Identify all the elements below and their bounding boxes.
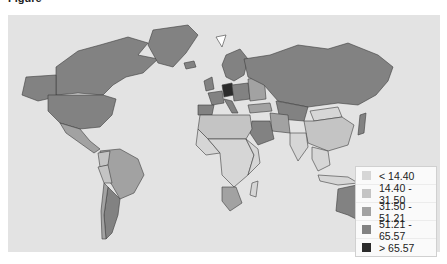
legend-item: 51.21 - 65.57 [356,221,436,239]
legend-item: > 65.57 [356,239,436,256]
country-north-africa [198,115,252,139]
country-canada [56,37,158,95]
country-spain [198,105,214,115]
legend-swatch-2 [362,189,371,198]
country-russia [244,43,393,107]
legend-label: 51.21 - 65.57 [379,218,436,242]
map-legend: < 14.40 14.40 - 31.50 31.50 - 51.21 51.2… [355,166,437,257]
country-colombia [98,151,110,167]
country-se-asia [312,147,330,171]
country-india [290,133,308,161]
legend-swatch-3 [362,207,371,216]
country-iceland [184,61,196,69]
figure-caption: Figure [8,0,42,4]
legend-swatch-4 [362,225,371,234]
country-svalbard [216,35,226,47]
country-usa [48,95,116,129]
country-south-africa [222,187,242,211]
country-italy [224,99,238,113]
country-central-africa [208,139,254,187]
country-turkey [248,103,272,113]
legend-swatch-5 [362,243,371,252]
country-france [208,91,224,105]
country-central-europe [232,83,250,101]
country-indonesia [318,175,358,185]
country-madagascar [250,181,258,197]
legend-swatch-1 [362,171,371,180]
country-saudi-arabia [250,121,274,145]
legend-label: < 14.40 [379,170,414,182]
country-japan [358,113,366,135]
legend-label: > 65.57 [379,242,414,254]
country-uk [204,77,214,91]
country-china [304,117,354,151]
country-scandinavia [222,49,248,81]
caption-prefix: Figure [8,0,42,4]
country-iran [270,113,290,133]
